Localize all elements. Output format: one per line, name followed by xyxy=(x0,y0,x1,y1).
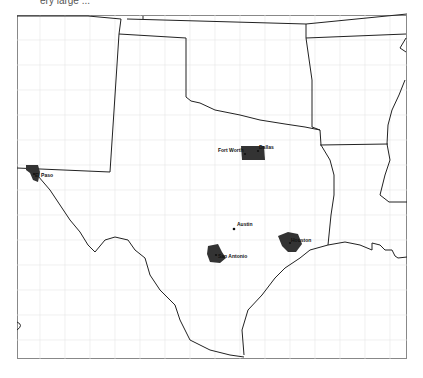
city-label-san-antonio: San Antonio xyxy=(218,253,247,259)
texas-map: El Paso Fort Worth Dallas Austin San Ant… xyxy=(0,0,423,378)
metro-areas xyxy=(26,146,302,263)
state-borders xyxy=(17,14,407,357)
city-label-el-paso: El Paso xyxy=(35,172,53,178)
county-grid xyxy=(17,15,407,359)
city-labels: El Paso Fort Worth Dallas Austin San Ant… xyxy=(35,144,311,259)
city-label-fort-worth: Fort Worth xyxy=(218,147,243,153)
city-label-houston: Houston xyxy=(291,237,311,243)
city-label-austin: Austin xyxy=(237,221,253,227)
city-label-dallas: Dallas xyxy=(259,144,274,150)
